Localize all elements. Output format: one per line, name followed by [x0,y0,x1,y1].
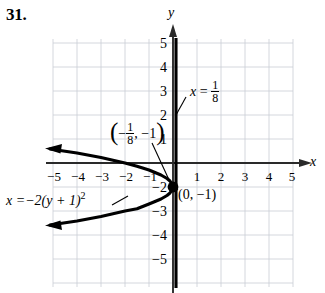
focus-minus: − [118,126,126,141]
svg-text:−4: −4 [152,228,167,243]
equation-label: x =−2(y + 1)2 [6,191,86,208]
focus-denominator: 8 [126,134,134,146]
svg-text:−3: −3 [152,204,167,219]
svg-text:4: 4 [160,60,167,75]
svg-text:5: 5 [289,169,296,184]
directrix-label-equals: = [200,84,208,99]
svg-text:−2: −2 [152,180,167,195]
directrix-label: x = 18 [190,80,219,105]
directrix-fraction: 18 [211,79,219,104]
axes [46,24,312,293]
svg-text:−2: −2 [119,169,133,184]
svg-text:−4: −4 [71,169,85,184]
equation-text: x =−2(y + 1) [6,193,81,208]
focus-second-coord: −1 [141,126,156,141]
equation-exponent: 2 [81,190,86,201]
y-tick-labels: 5 4 3 2 1 −2 −3 −4 −5 [152,36,167,267]
svg-text:2: 2 [218,169,225,184]
svg-text:4: 4 [266,169,273,184]
focus-close-paren: ) [156,118,164,145]
parabola-lower-arrowhead [45,221,62,231]
y-axis-arrowhead [169,24,177,37]
directrix-numerator: 1 [211,79,219,91]
svg-text:−3: −3 [95,169,109,184]
svg-text:5: 5 [160,36,167,51]
focus-numerator: 1 [126,121,134,133]
focus-label: (−18, −1) [110,122,164,147]
x-axis-label: x [310,155,316,169]
parabola-upper-arrowhead [45,144,62,154]
focus-open-paren: ( [110,118,118,145]
svg-text:3: 3 [160,84,167,99]
directrix-denominator: 8 [211,92,219,104]
equation-leader-line [112,196,128,205]
math-figure-parabola: 31. [0,0,325,293]
focus-fraction: 18 [126,121,134,146]
svg-text:1: 1 [194,169,201,184]
svg-text:−5: −5 [152,252,167,267]
svg-text:−5: −5 [47,169,61,184]
svg-text:3: 3 [242,169,249,184]
vertex-label: (0, −1) [178,188,216,202]
y-axis-label: y [168,6,174,20]
